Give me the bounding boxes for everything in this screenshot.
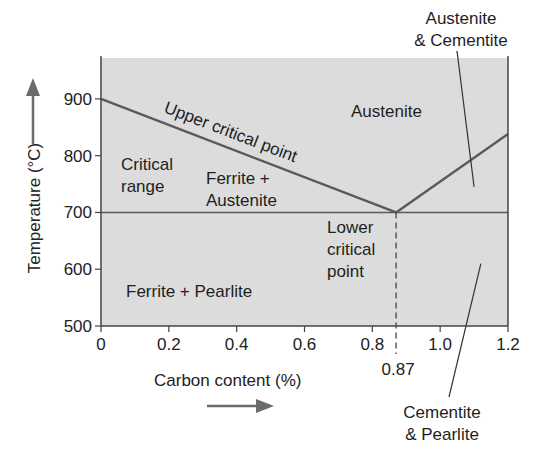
y-tick-label: 600 xyxy=(64,260,92,279)
x-axis-arrow-icon xyxy=(256,399,274,413)
region-ferrite-pearlite: Ferrite + Pearlite xyxy=(126,282,252,301)
annotation-austenite-cementite: Austenite& Cementite xyxy=(414,9,508,50)
x-tick-label: 0.4 xyxy=(225,335,249,354)
annotation-line: Cementite xyxy=(403,403,480,422)
region-ferrite-austenite-line: Austenite xyxy=(206,191,277,210)
phase-diagram-chart: 50060070080090000.20.40.60.81.01.20.87Ca… xyxy=(0,0,542,463)
y-tick-label: 500 xyxy=(64,317,92,336)
y-tick-label: 700 xyxy=(64,203,92,222)
region-ferrite-austenite-line: Ferrite + xyxy=(206,169,270,188)
region-ferrite-pearlite-line: Ferrite + Pearlite xyxy=(126,282,252,301)
annotation-cementite-pearlite: Cementite& Pearlite xyxy=(403,403,480,444)
x-tick-label: 0.8 xyxy=(361,335,385,354)
x-tick-label: 0.6 xyxy=(293,335,317,354)
y-axis-title: Temperature (°C) xyxy=(25,143,44,274)
y-axis-arrow-icon xyxy=(26,78,40,96)
region-lower-critical-point-line: point xyxy=(327,262,364,281)
x-tick-label: 0 xyxy=(96,335,105,354)
region-lower-critical-point-line: Lower xyxy=(327,218,374,237)
y-tick-label: 800 xyxy=(64,147,92,166)
region-austenite-line: Austenite xyxy=(351,102,422,121)
annotation-line: & Pearlite xyxy=(405,425,479,444)
y-tick-label: 900 xyxy=(64,90,92,109)
annotation-line: & Cementite xyxy=(414,31,508,50)
x-tick-label-eutectoid: 0.87 xyxy=(382,360,415,379)
x-axis-title: Carbon content (%) xyxy=(154,371,301,390)
annotation-line: Austenite xyxy=(426,9,497,28)
region-lower-critical-point-line: critical xyxy=(327,240,375,259)
region-critical-range-line: Critical xyxy=(121,155,173,174)
x-tick-label: 1.2 xyxy=(496,335,520,354)
x-tick-label: 0.2 xyxy=(157,335,181,354)
region-critical-range-line: range xyxy=(121,177,164,196)
region-austenite: Austenite xyxy=(351,102,422,121)
x-tick-label: 1.0 xyxy=(428,335,452,354)
